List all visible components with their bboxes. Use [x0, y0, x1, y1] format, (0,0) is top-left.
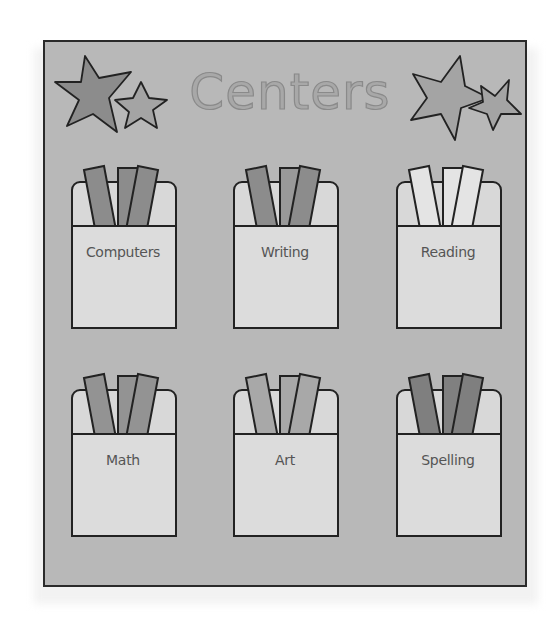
pocket-label: Spelling	[395, 452, 501, 468]
board-title: Centers	[165, 62, 415, 122]
pocket-label: Art	[232, 452, 338, 468]
pocket-label: Computers	[70, 244, 176, 260]
centers-board: Centers Computers Writing Readin	[43, 40, 527, 587]
pocket-label: Reading	[395, 244, 501, 260]
pocket-reading: Reading	[395, 162, 505, 332]
pocket-math: Math	[70, 370, 180, 540]
pocket-computers: Computers	[70, 162, 180, 332]
pocket-writing: Writing	[232, 162, 342, 332]
pocket-label: Writing	[232, 244, 338, 260]
pocket-art: Art	[232, 370, 342, 540]
pocket-label: Math	[70, 452, 176, 468]
star-icon	[55, 56, 131, 132]
pocket-spelling: Spelling	[395, 370, 505, 540]
star-icon	[115, 82, 167, 128]
star-icon	[469, 80, 521, 130]
star-icon	[411, 56, 489, 140]
